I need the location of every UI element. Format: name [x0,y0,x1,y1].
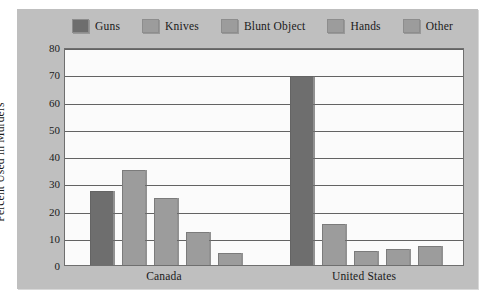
legend-swatch-guns [72,19,89,33]
bar-knives [322,224,345,265]
bar-blunt-object [154,198,177,265]
legend-swatch-blunt-object [221,19,238,33]
legend-item-hands: Hands [327,19,380,33]
legend-swatch-hands [327,19,344,33]
bar-face [186,232,209,265]
plot-wrap [64,48,464,266]
legend-swatch-knives [142,19,159,33]
legend-item-knives: Knives [142,19,199,33]
bar-face [418,246,441,265]
legend-item-blunt-object: Blunt Object [221,19,306,33]
bar-face [290,76,313,265]
category-label-united-states: United States [264,270,464,282]
legend-label-blunt-object: Blunt Object [244,20,306,32]
bar-face [122,170,145,265]
bar-blunt-object [354,251,377,265]
legend-label-guns: Guns [95,20,120,32]
legend-label-knives: Knives [165,20,199,32]
bar-face [386,249,409,265]
chart-figure: Guns Knives Blunt Object Hands Other Per… [0,0,496,303]
bar-other [418,246,441,265]
legend-swatch-other [403,19,420,33]
bar-guns [290,76,313,265]
bar-hands [386,249,409,265]
legend-item-other: Other [403,19,453,33]
legend-label-other: Other [426,20,453,32]
bar-face [154,198,177,265]
legend-label-hands: Hands [350,20,380,32]
bar-face [354,251,377,265]
bar-face [90,191,113,265]
plot-area [64,48,464,266]
bar-face [322,224,345,265]
bar-face [218,253,241,265]
bar-knives [122,170,145,265]
bar-guns [90,191,113,265]
legend-item-guns: Guns [72,19,120,33]
bar-group-united-states [265,49,465,265]
bar-other [218,253,241,265]
bar-group-canada [65,49,265,265]
category-label-canada: Canada [64,270,264,282]
chart-legend: Guns Knives Blunt Object Hands Other [17,9,478,43]
y-axis-title: Percent Used in Murders [0,92,6,232]
bar-hands [186,232,209,265]
